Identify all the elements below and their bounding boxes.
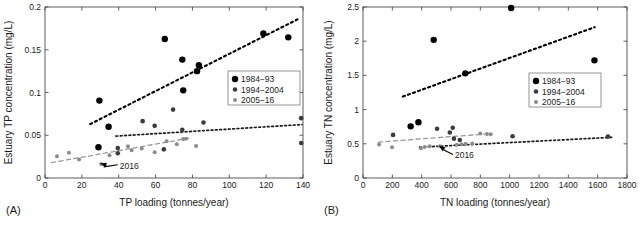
x-axis-title: TN loading (tonnes/year) bbox=[440, 197, 550, 208]
plot-svg-panel-b: 02004006008001000120014001600180000.511.… bbox=[320, 0, 641, 225]
trendline-1994-2004-trend bbox=[378, 134, 492, 143]
data-point bbox=[285, 34, 291, 40]
x-tick-label: 40 bbox=[114, 180, 124, 190]
legend-label: 2005−16 bbox=[542, 97, 576, 107]
data-point bbox=[390, 145, 394, 149]
data-point bbox=[180, 127, 185, 132]
y-tick-label: 0.05 bbox=[24, 130, 41, 140]
data-point bbox=[179, 56, 185, 62]
data-point bbox=[430, 37, 436, 43]
data-point bbox=[377, 142, 381, 146]
y-tick-label: 0.5 bbox=[347, 139, 359, 149]
y-axis-title: Estuary TN concentration (mg/L) bbox=[323, 20, 334, 164]
data-point bbox=[108, 153, 112, 157]
data-point bbox=[508, 5, 514, 11]
x-tick-label: 600 bbox=[444, 180, 458, 190]
x-tick-label: 100 bbox=[222, 180, 236, 190]
legend-marker bbox=[534, 100, 538, 104]
data-point bbox=[458, 138, 463, 143]
x-tick-label: 0 bbox=[361, 180, 366, 190]
data-point bbox=[175, 142, 179, 146]
plot-svg-panel-a: 02040608010012014000.050.10.150.22016198… bbox=[0, 0, 320, 225]
data-point bbox=[95, 144, 101, 150]
x-tick-label: 1800 bbox=[618, 180, 637, 190]
data-point bbox=[194, 68, 200, 74]
legend-marker bbox=[233, 98, 237, 102]
legend-label: 1994−2004 bbox=[241, 85, 284, 95]
x-axis-title: TP loading (tonnes/year) bbox=[119, 197, 228, 208]
data-point bbox=[489, 132, 493, 136]
x-tick-label: 120 bbox=[259, 180, 273, 190]
data-point bbox=[153, 150, 157, 154]
data-point bbox=[184, 137, 188, 141]
data-point bbox=[428, 144, 432, 148]
data-point bbox=[165, 139, 169, 143]
trendline-2005-16-trend bbox=[419, 137, 612, 147]
data-point bbox=[452, 136, 457, 141]
data-point bbox=[448, 130, 453, 135]
x-tick-label: 1600 bbox=[588, 180, 607, 190]
data-point bbox=[415, 119, 421, 125]
data-point bbox=[140, 147, 144, 151]
data-point bbox=[419, 146, 423, 150]
data-point bbox=[196, 62, 202, 68]
x-tick-label: 800 bbox=[473, 180, 487, 190]
figure-container: 02040608010012014000.050.10.150.22016198… bbox=[0, 0, 641, 225]
y-tick-label: 1.5 bbox=[347, 70, 359, 80]
x-tick-label: 0 bbox=[43, 180, 48, 190]
data-point bbox=[162, 36, 168, 42]
data-point bbox=[140, 119, 145, 124]
data-point bbox=[478, 132, 482, 136]
trendline-1994-2004-trend bbox=[116, 125, 302, 137]
legend-label: 1984−93 bbox=[241, 74, 275, 84]
legend-marker bbox=[233, 87, 238, 92]
x-tick-label: 1400 bbox=[559, 180, 578, 190]
data-point bbox=[606, 134, 611, 139]
legend-marker bbox=[534, 89, 539, 94]
legend-label: 2005−16 bbox=[241, 95, 275, 105]
legend-marker bbox=[232, 76, 238, 82]
data-point bbox=[260, 30, 266, 36]
data-point bbox=[126, 144, 130, 148]
data-point bbox=[162, 147, 167, 152]
data-point bbox=[391, 133, 396, 138]
data-point bbox=[96, 97, 102, 103]
data-point bbox=[455, 143, 459, 147]
y-tick-label: 0 bbox=[354, 173, 359, 183]
annotation-label-2016: 2016 bbox=[455, 150, 474, 160]
data-point bbox=[152, 124, 157, 129]
chart-panel-a: 02040608010012014000.050.10.150.22016198… bbox=[0, 0, 320, 225]
data-point bbox=[435, 126, 440, 131]
data-point bbox=[450, 125, 455, 130]
annotation-arrow-line bbox=[443, 149, 453, 154]
legend-label: 1984−93 bbox=[542, 76, 576, 86]
data-point bbox=[180, 87, 186, 93]
data-point bbox=[299, 141, 304, 146]
panel-label: (A) bbox=[6, 204, 21, 216]
y-tick-label: 2.5 bbox=[347, 2, 359, 12]
y-tick-label: 0.2 bbox=[29, 2, 41, 12]
x-tick-label: 140 bbox=[296, 180, 310, 190]
panel-label: (B) bbox=[324, 204, 339, 216]
data-point bbox=[485, 132, 489, 136]
annotation-label-2016: 2016 bbox=[120, 161, 139, 171]
data-point bbox=[407, 123, 413, 129]
data-point bbox=[130, 148, 134, 152]
x-tick-label: 1200 bbox=[530, 180, 549, 190]
data-point bbox=[591, 57, 597, 63]
series-1984-93 bbox=[407, 5, 597, 130]
data-point bbox=[171, 107, 176, 112]
y-tick-label: 0.1 bbox=[29, 88, 41, 98]
data-point bbox=[67, 151, 71, 155]
data-point bbox=[510, 134, 515, 139]
legend-label: 1994−2004 bbox=[542, 87, 585, 97]
data-point bbox=[77, 158, 81, 162]
data-point bbox=[194, 144, 198, 148]
data-point bbox=[201, 120, 206, 125]
data-point bbox=[299, 116, 304, 121]
y-tick-label: 2 bbox=[354, 36, 359, 46]
y-tick-label: 0.15 bbox=[24, 45, 41, 55]
data-point bbox=[105, 124, 111, 130]
y-axis-title: Estuary TP concentration (mg/L) bbox=[3, 21, 14, 165]
data-point bbox=[464, 142, 468, 146]
